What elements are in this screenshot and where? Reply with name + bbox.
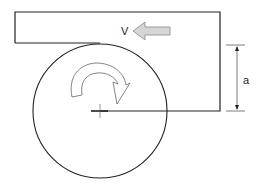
velocity-arrow-icon (133, 22, 170, 40)
center-mark (91, 104, 108, 118)
diagram-canvas: V a (0, 0, 260, 185)
velocity-label: V (121, 25, 129, 37)
dimension-label: a (243, 74, 250, 86)
rotation-arrow-icon (71, 63, 130, 104)
